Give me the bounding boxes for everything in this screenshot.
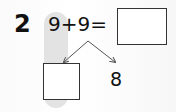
- right-arrow-icon: [88, 41, 115, 62]
- known-part: 8: [110, 70, 122, 89]
- decomposition-arrows: [0, 0, 176, 112]
- split-answer-box[interactable]: [43, 63, 80, 100]
- left-arrow-icon: [64, 41, 88, 62]
